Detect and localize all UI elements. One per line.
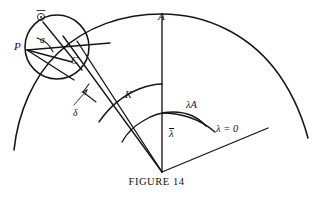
- delta-arrow: [74, 90, 87, 105]
- chord-P-to-C: [27, 50, 72, 62]
- odot-center-dot: [40, 16, 42, 18]
- ray-lambda-zero: [162, 128, 268, 172]
- label-point-P: P: [14, 41, 21, 52]
- chord-P-lower-right: [27, 50, 74, 80]
- label-arc-lambda-A: λA: [186, 100, 197, 111]
- figure-drawing: [0, 0, 313, 197]
- label-point-A: A: [158, 11, 165, 22]
- wedge-edge-lower: [77, 41, 162, 172]
- label-point-C: C: [71, 56, 78, 67]
- wedge-cross-bar: [83, 92, 96, 102]
- label-angle-lambda-bar: λ: [169, 129, 174, 140]
- label-ray-lambda-zero: λ = 0: [216, 124, 238, 135]
- figure-caption: FIGURE 14: [0, 176, 313, 187]
- label-arc-K: K: [125, 90, 132, 100]
- arc-lambda-bar: [122, 112, 206, 142]
- figure-14-container: A P C a K δ λA λ λ = 0 FIGURE 14: [0, 0, 313, 197]
- label-angle-a: a: [40, 36, 45, 46]
- label-lambda-bar-text: λ: [169, 129, 174, 140]
- label-angle-delta: δ: [73, 109, 77, 119]
